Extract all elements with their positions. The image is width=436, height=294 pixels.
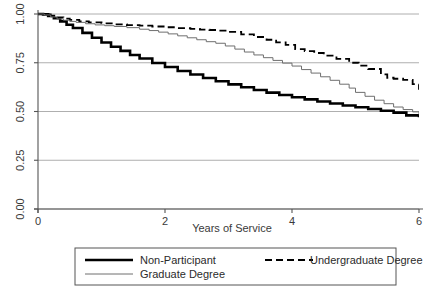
chart-canvas: 0.000.250.500.751.00 0246 Years of Servi…: [0, 0, 436, 294]
data-series-layer: [38, 14, 419, 117]
y-tick-label-2: 0.50: [14, 101, 26, 122]
x-tick-label-2: 4: [289, 215, 295, 227]
y-tick-label-3: 0.75: [14, 52, 26, 73]
survival-curve-figure: 0.000.250.500.751.00 0246 Years of Servi…: [0, 0, 436, 294]
y-tick-label-1: 0.25: [14, 150, 26, 171]
x-tick-label-1: 2: [162, 215, 168, 227]
y-tick-label-4: 1.00: [14, 3, 26, 24]
x-tick-label-3: 6: [416, 215, 422, 227]
x-axis-title: Years of Service: [192, 222, 272, 234]
y-axis-tick-labels: 0.000.250.500.751.00: [14, 3, 26, 219]
y-tick-label-0: 0.00: [14, 198, 26, 219]
legend-label-1: Undergraduate Degree: [310, 254, 423, 266]
legend-label-0: Non-Participant: [140, 254, 216, 266]
series-line-2: [38, 14, 419, 114]
gridlines: [38, 14, 419, 209]
x-tick-label-0: 0: [35, 215, 41, 227]
legend-label-2: Graduate Degree: [140, 268, 225, 280]
chart-legend: Non-ParticipantUndergraduate DegreeGradu…: [75, 248, 423, 285]
